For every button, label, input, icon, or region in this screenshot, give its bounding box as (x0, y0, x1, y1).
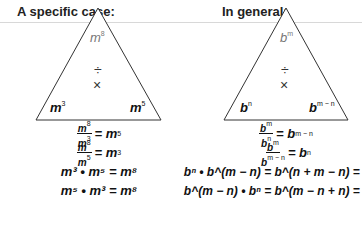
equation: bmbm − n = bn (218, 143, 354, 162)
specific-left-label: m3 (50, 100, 65, 115)
equation: m³ • m⁵ = m⁸ (40, 162, 158, 181)
general-top-label: bm (280, 30, 293, 45)
divide-icon: ÷ (281, 62, 289, 78)
equation: bⁿ • b^(m − n) = b^(n + m − n) = b^m (218, 162, 354, 181)
equation: bmbn = bm − n (218, 124, 354, 143)
times-icon: × (93, 77, 101, 93)
general-left-label: bn (240, 100, 252, 115)
general-equations: bmbn = bm − n bmbm − n = bn bⁿ • b^(m − … (218, 124, 354, 200)
equation: m⁵ • m³ = m⁸ (40, 181, 158, 200)
general-right-label: bm − n (309, 100, 335, 115)
specific-right-label: m5 (130, 100, 145, 115)
equation: b^(m − n) • bⁿ = b^(m − n + n) = b^m (218, 181, 354, 200)
specific-top-label: m8 (90, 30, 105, 45)
equation: m8m5 = m3 (40, 143, 158, 162)
times-icon: × (280, 77, 288, 93)
divide-icon: ÷ (94, 62, 102, 78)
equation: m8m3 = m5 (40, 124, 158, 143)
specific-equations: m8m3 = m5 m8m5 = m3 m³ • m⁵ = m⁸ m⁵ • m³… (40, 124, 158, 200)
